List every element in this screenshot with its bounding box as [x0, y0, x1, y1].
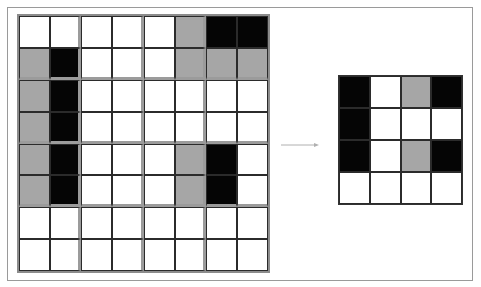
grid-cell — [81, 80, 112, 112]
grid-cell — [81, 144, 112, 176]
grid-cell — [144, 207, 175, 239]
grid-cell — [237, 16, 268, 48]
grid-cell — [339, 172, 370, 204]
grid-cell — [112, 16, 143, 48]
grid-cell — [370, 172, 401, 204]
grid-cell — [175, 112, 206, 144]
grid-cell — [206, 48, 237, 80]
grid-cell — [144, 80, 175, 112]
grid-cell — [339, 140, 370, 172]
grid-cell — [206, 175, 237, 207]
grid-cell — [237, 207, 268, 239]
grid-cell — [19, 112, 50, 144]
grid-cell — [19, 144, 50, 176]
grid-cell — [401, 108, 432, 140]
grid-cell — [19, 16, 50, 48]
grid-cell — [50, 207, 81, 239]
grid-cell — [50, 112, 81, 144]
grid-cell — [50, 48, 81, 80]
grid-cell — [237, 144, 268, 176]
grid-cell — [144, 48, 175, 80]
grid-cell — [112, 144, 143, 176]
grid-cell — [112, 175, 143, 207]
grid-cell — [19, 207, 50, 239]
grid-cell — [237, 112, 268, 144]
grid-cell — [206, 112, 237, 144]
grid-cell — [206, 16, 237, 48]
grid-cell — [144, 16, 175, 48]
grid-cell — [81, 175, 112, 207]
grid-cell — [144, 175, 175, 207]
grid-cell — [175, 239, 206, 271]
grid-cell — [339, 108, 370, 140]
grid-cell — [144, 239, 175, 271]
grid-cell — [370, 76, 401, 108]
input-grid — [17, 14, 270, 273]
grid-cell — [175, 80, 206, 112]
grid-cell — [81, 239, 112, 271]
grid-cell — [50, 16, 81, 48]
arrow-right-icon — [281, 143, 319, 145]
grid-cell — [50, 144, 81, 176]
grid-cell — [19, 239, 50, 271]
grid-cell — [431, 108, 462, 140]
grid-cell — [237, 80, 268, 112]
grid-cell — [175, 207, 206, 239]
grid-cell — [237, 48, 268, 80]
grid-cell — [237, 239, 268, 271]
grid-cell — [81, 48, 112, 80]
grid-cell — [401, 76, 432, 108]
grid-cell — [112, 239, 143, 271]
grid-cell — [431, 140, 462, 172]
grid-cell — [206, 207, 237, 239]
grid-cell — [144, 144, 175, 176]
grid-cell — [144, 112, 175, 144]
grid-cell — [237, 175, 268, 207]
grid-cell — [206, 80, 237, 112]
grid-cell — [19, 80, 50, 112]
grid-cell — [401, 140, 432, 172]
grid-cell — [50, 239, 81, 271]
grid-cell — [175, 144, 206, 176]
grid-cell — [112, 112, 143, 144]
grid-cell — [19, 48, 50, 80]
grid-cell — [175, 16, 206, 48]
grid-cell — [370, 108, 401, 140]
grid-cell — [81, 112, 112, 144]
grid-cell — [50, 80, 81, 112]
grid-cell — [431, 76, 462, 108]
grid-cell — [401, 172, 432, 204]
grid-cell — [81, 16, 112, 48]
output-grid — [338, 75, 463, 205]
grid-cell — [370, 140, 401, 172]
grid-cell — [112, 48, 143, 80]
grid-cell — [339, 76, 370, 108]
grid-cell — [81, 207, 112, 239]
grid-cell — [206, 239, 237, 271]
grid-cell — [431, 172, 462, 204]
grid-cell — [206, 144, 237, 176]
grid-cell — [50, 175, 81, 207]
grid-cell — [112, 80, 143, 112]
grid-cell — [175, 175, 206, 207]
grid-cell — [112, 207, 143, 239]
grid-cell — [19, 175, 50, 207]
grid-cell — [175, 48, 206, 80]
